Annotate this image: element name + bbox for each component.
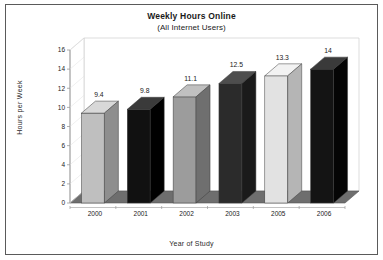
bar-front-face[interactable] bbox=[265, 76, 288, 203]
x-axis-category-label: 2003 bbox=[225, 210, 240, 217]
chart-canvas: 02468101214169.420009.8200111.1200212.52… bbox=[0, 0, 383, 260]
bar-front-face[interactable] bbox=[311, 69, 334, 203]
bar-value-label: 9.8 bbox=[140, 87, 150, 94]
bar-value-label: 12.5 bbox=[230, 61, 243, 68]
bar-group[interactable] bbox=[173, 85, 210, 203]
bar-group[interactable] bbox=[311, 57, 348, 203]
x-axis-category-label: 2002 bbox=[179, 210, 194, 217]
bar-side-face[interactable] bbox=[104, 101, 118, 203]
x-axis-category-label: 2006 bbox=[317, 210, 332, 217]
bar-side-face[interactable] bbox=[334, 57, 348, 203]
y-axis-tick-label: 0 bbox=[61, 199, 65, 206]
y-axis-tick-label: 4 bbox=[61, 161, 65, 168]
bar-side-face[interactable] bbox=[288, 64, 302, 203]
y-axis-tick-label: 12 bbox=[58, 85, 66, 92]
bar-front-face[interactable] bbox=[127, 109, 150, 203]
y-axis-tick-label: 8 bbox=[61, 123, 65, 130]
bar-value-label: 9.4 bbox=[94, 91, 104, 98]
y-axis-tick-label: 2 bbox=[61, 180, 65, 187]
bar-value-label: 14 bbox=[324, 47, 332, 54]
plot-area: 02468101214169.420009.8200111.1200212.52… bbox=[0, 0, 383, 260]
bar-front-face[interactable] bbox=[81, 113, 104, 203]
bar-front-face[interactable] bbox=[173, 97, 196, 203]
bar-value-label: 11.1 bbox=[184, 75, 197, 82]
x-axis-category-label: 2001 bbox=[134, 210, 149, 217]
bar-group[interactable] bbox=[219, 71, 256, 203]
bar-side-face[interactable] bbox=[196, 85, 210, 203]
bar-group[interactable] bbox=[81, 101, 118, 203]
x-axis-category-label: 2005 bbox=[271, 210, 286, 217]
bar-group[interactable] bbox=[265, 64, 302, 203]
x-axis-category-label: 2000 bbox=[88, 210, 103, 217]
y-axis-tick-label: 6 bbox=[61, 142, 65, 149]
y-axis-tick-label: 16 bbox=[58, 46, 66, 53]
bar-value-label: 13.3 bbox=[276, 54, 289, 61]
bar-side-face[interactable] bbox=[242, 71, 256, 203]
bar-side-face[interactable] bbox=[150, 97, 164, 203]
y-axis-tick-label: 10 bbox=[58, 104, 66, 111]
bar-front-face[interactable] bbox=[219, 83, 242, 203]
y-axis-tick-label: 14 bbox=[58, 65, 66, 72]
bar-group[interactable] bbox=[127, 97, 164, 203]
chart-figure: Weekly Hours Online (All Internet Users)… bbox=[0, 0, 383, 260]
